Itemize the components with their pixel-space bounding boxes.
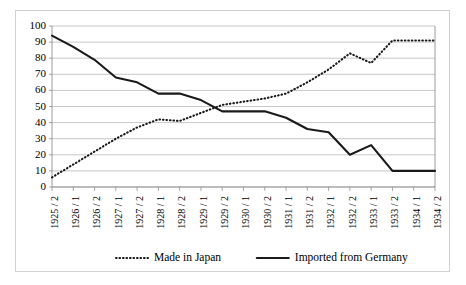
x-tick-label: 1930 / 2 bbox=[262, 196, 273, 229]
x-tick-label: 1933 / 1 bbox=[368, 196, 379, 229]
x-tick-label: 1930 / 1 bbox=[240, 196, 251, 229]
x-tick-label: 1927 / 2 bbox=[134, 196, 145, 229]
y-tick-label: 10 bbox=[35, 164, 47, 176]
x-tick-label: 1934 / 2 bbox=[432, 196, 443, 229]
x-tick-label: 1931 / 2 bbox=[304, 196, 315, 229]
x-axis-tick-marks bbox=[52, 187, 435, 191]
y-tick-label: 90 bbox=[35, 35, 47, 47]
legend-label: Made in Japan bbox=[154, 251, 221, 264]
x-tick-label: 1934 / 1 bbox=[411, 196, 422, 229]
x-tick-label: 1926 / 1 bbox=[70, 196, 81, 229]
x-tick-label: 1932 / 2 bbox=[347, 196, 358, 229]
x-tick-label: 1926 / 2 bbox=[91, 196, 102, 229]
series-line-made-in-japan bbox=[52, 40, 435, 177]
x-tick-label: 1929 / 1 bbox=[198, 196, 209, 229]
line-chart: 0102030405060708090100 1925 / 21926 / 11… bbox=[16, 11, 451, 273]
y-tick-label: 20 bbox=[35, 148, 47, 160]
y-tick-label: 80 bbox=[35, 51, 47, 63]
y-tick-label: 70 bbox=[35, 67, 47, 79]
y-axis-tick-labels: 0102030405060708090100 bbox=[30, 19, 47, 192]
y-tick-label: 40 bbox=[35, 116, 47, 128]
x-tick-label: 1927 / 1 bbox=[113, 196, 124, 229]
x-tick-label: 1932 / 1 bbox=[325, 196, 336, 229]
chart-legend: Made in JapanImported from Germany bbox=[116, 251, 408, 264]
x-tick-label: 1933 / 2 bbox=[389, 196, 400, 229]
y-tick-label: 60 bbox=[35, 83, 47, 95]
x-tick-label: 1925 / 2 bbox=[49, 196, 60, 229]
chart-plot-wrapper: 0102030405060708090100 1925 / 21926 / 11… bbox=[16, 11, 451, 273]
x-tick-label: 1931 / 1 bbox=[283, 196, 294, 229]
x-tick-label: 1929 / 2 bbox=[219, 196, 230, 229]
x-axis-tick-labels: 1925 / 21926 / 11926 / 21927 / 11927 / 2… bbox=[49, 196, 443, 229]
y-tick-label: 50 bbox=[35, 100, 47, 112]
y-tick-label: 0 bbox=[41, 180, 47, 192]
chart-container: 0102030405060708090100 1925 / 21926 / 11… bbox=[15, 10, 450, 272]
x-tick-label: 1928 / 1 bbox=[155, 196, 166, 229]
y-tick-label: 100 bbox=[30, 19, 47, 31]
y-tick-label: 30 bbox=[35, 132, 47, 144]
x-tick-label: 1928 / 2 bbox=[176, 196, 187, 229]
legend-label: Imported from Germany bbox=[295, 251, 408, 264]
gridlines bbox=[49, 26, 435, 187]
